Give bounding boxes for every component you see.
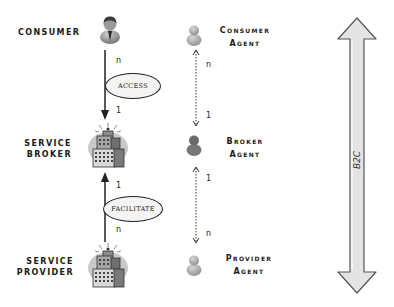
broker-agent-label-line2: Agent <box>215 148 275 161</box>
provider-agent-person-icon <box>186 254 202 276</box>
provider-agent-label-line2: Agent <box>214 265 284 278</box>
lower-link-mult-n: n <box>206 229 211 238</box>
facilitate-mult-n: n <box>116 225 121 234</box>
service-provider-label: SERVICE PROVIDER <box>14 256 74 278</box>
service-broker-label-line1: SERVICE <box>22 138 72 149</box>
consumer-label: CONSUMER <box>18 27 80 38</box>
lower-link-mult-1: 1 <box>206 174 211 183</box>
consumer-agent-label: Consumer Agent <box>210 24 280 50</box>
service-broker-label-line2: BROKER <box>22 149 72 160</box>
upper-link-mult-n: n <box>206 60 211 69</box>
consumer-agent-person-icon <box>186 24 202 46</box>
consumer-agent-label-line1: Consumer <box>210 24 280 37</box>
broker-agent-label: Broker Agent <box>215 135 275 161</box>
broker-provider-agent-link <box>192 167 200 243</box>
access-label: ACCESS <box>118 82 148 90</box>
consumer-broker-agent-link <box>192 50 200 126</box>
b2c-label: B2C <box>352 149 362 171</box>
provider-agent-label-line1: Provider <box>214 252 284 265</box>
access-mult-1: 1 <box>116 106 121 115</box>
consumer-agent-label-line2: Agent <box>210 37 280 50</box>
facilitate-label: FACILITATE <box>111 205 154 213</box>
facilitate-ellipse: FACILITATE <box>103 196 163 222</box>
provider-agent-label: Provider Agent <box>214 252 284 278</box>
facilitate-mult-1: 1 <box>116 181 121 190</box>
consumer-person-icon <box>98 14 122 44</box>
service-provider-label-line2: PROVIDER <box>14 267 74 278</box>
broker-agent-person-icon <box>186 134 202 156</box>
broker-building-icon <box>84 122 132 170</box>
broker-agent-label-line1: Broker <box>215 135 275 148</box>
upper-link-mult-1: 1 <box>206 111 211 120</box>
service-broker-label: SERVICE BROKER <box>22 138 72 160</box>
access-mult-n: n <box>116 56 121 65</box>
service-provider-label-line1: SERVICE <box>14 256 74 267</box>
provider-building-icon <box>84 242 132 290</box>
access-ellipse: ACCESS <box>105 73 161 99</box>
